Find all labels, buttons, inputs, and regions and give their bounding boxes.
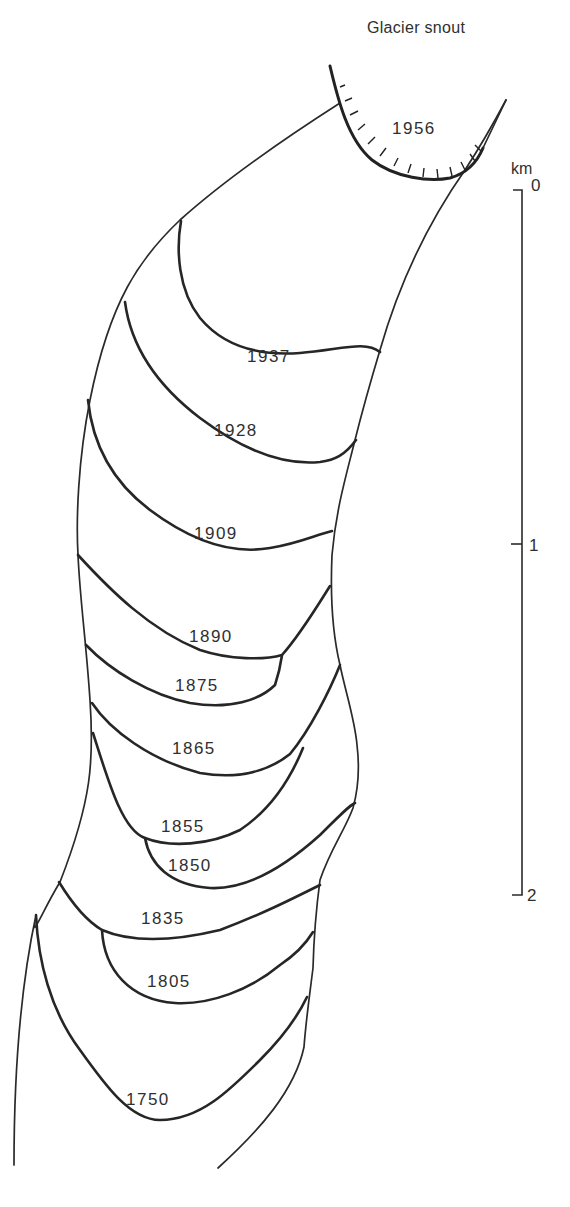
- valley-outline: [14, 100, 506, 1168]
- scale-tick-label-1: 1: [529, 537, 538, 554]
- year-label-1850: 1850: [168, 857, 212, 874]
- year-label-1890: 1890: [189, 628, 233, 645]
- glacier-retreat-diagram: Glacier snout 1956 1937 1928 1909 1890 1…: [0, 0, 570, 1207]
- scale-unit-label: km: [511, 161, 532, 177]
- year-label-1937: 1937: [247, 348, 291, 365]
- scale-tick-label-0: 0: [531, 177, 540, 194]
- diagram-title: Glacier snout: [367, 20, 465, 36]
- scale-bar: [511, 190, 522, 895]
- year-label-1855: 1855: [161, 818, 205, 835]
- year-label-1875: 1875: [175, 677, 219, 694]
- glacier-map-drawing: [0, 0, 570, 1207]
- left-valley-wall: [14, 103, 340, 1165]
- moraine-1750: [36, 915, 307, 1120]
- moraine-1805: [102, 930, 313, 1003]
- scale-tick-label-2: 2: [527, 887, 536, 904]
- year-label-1928: 1928: [214, 422, 258, 439]
- year-label-1956: 1956: [392, 120, 436, 137]
- year-label-1750: 1750: [126, 1091, 170, 1108]
- year-label-1805: 1805: [147, 973, 191, 990]
- snout-right-edge: [483, 100, 506, 148]
- right-valley-wall: [218, 100, 506, 1168]
- scale-bar-line: [512, 190, 522, 895]
- year-label-1909: 1909: [194, 525, 238, 542]
- moraine-1850: [145, 803, 355, 888]
- moraine-1937: [179, 221, 380, 354]
- year-label-1835: 1835: [141, 910, 185, 927]
- moraine-1835: [59, 882, 320, 939]
- year-label-1865: 1865: [172, 740, 216, 757]
